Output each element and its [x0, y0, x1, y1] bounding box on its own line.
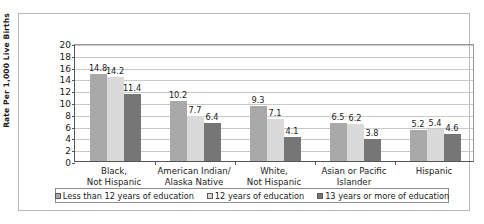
bar-value-label: 5.4: [428, 118, 441, 128]
bar-value-label: 6.5: [331, 112, 344, 122]
x-axis-category-label-line: Black,: [74, 166, 154, 177]
legend-swatch-icon: [55, 193, 61, 199]
y-axis-title-text: Rate Per 1,000 Live Births: [2, 6, 11, 136]
legend-item[interactable]: 12 years of education: [207, 191, 304, 201]
y-axis-tick-label: 4: [49, 134, 71, 144]
legend-swatch-icon: [317, 193, 323, 199]
x-axis-category-label: White,Not Hispanic: [234, 166, 314, 187]
y-axis-tick-label: 2: [49, 146, 71, 156]
chart-frame: Rate Per 1,000 Live Births 0246810121416…: [18, 13, 470, 211]
bar-value-label: 6.2: [348, 113, 361, 123]
bar[interactable]: 4.1: [284, 137, 301, 161]
x-axis-category-label: Asian or PacificIslander: [314, 166, 394, 187]
x-axis-category-label: Black,Not Hispanic: [74, 166, 154, 187]
x-axis-tick-mark: [315, 161, 316, 165]
x-axis-tick-mark: [235, 161, 236, 165]
y-axis-tick-label: 20: [49, 40, 71, 50]
bar-value-label: 4.1: [285, 126, 298, 136]
bar[interactable]: 6.2: [347, 124, 364, 161]
plot-area: 0246810121416182014.814.211.410.27.76.49…: [74, 44, 474, 162]
y-axis-tick-label: 10: [49, 99, 71, 109]
x-axis-tick-mark: [395, 161, 396, 165]
x-axis-category-label-line: American Indian/: [154, 166, 234, 177]
bar-value-label: 9.3: [251, 95, 264, 105]
x-axis-category-label-line: Alaska Native: [154, 177, 234, 188]
legend-swatch-icon: [207, 193, 213, 199]
y-axis-tick-label: 14: [49, 75, 71, 85]
legend-item-label: Less than 12 years of education: [63, 191, 194, 201]
bar-value-label: 7.7: [188, 105, 201, 115]
bar-group-bars: 14.814.211.4: [75, 45, 155, 161]
bar-group: 10.27.76.4: [155, 45, 235, 161]
bar-group-bars: 6.56.23.8: [315, 45, 395, 161]
bar-group: 5.25.44.6: [395, 45, 475, 161]
bar-value-label: 4.6: [445, 123, 458, 133]
bar[interactable]: 4.6: [444, 134, 461, 161]
y-axis-tick-label: 8: [49, 111, 71, 121]
y-axis-tick-mark: [72, 163, 75, 164]
bar[interactable]: 7.7: [187, 116, 204, 161]
bar-value-label: 14.2: [106, 66, 124, 76]
bar-value-label: 14.8: [89, 63, 107, 73]
bar-value-label: 11.4: [123, 83, 141, 93]
chart-legend: Less than 12 years of education12 years …: [55, 188, 449, 203]
bar-value-label: 5.2: [411, 119, 424, 129]
y-axis-tick-label: 18: [49, 52, 71, 62]
bar[interactable]: 5.2: [410, 130, 427, 161]
x-axis-tick-mark: [155, 161, 156, 165]
bar-group-bars: 9.37.14.1: [235, 45, 315, 161]
bar-group-bars: 10.27.76.4: [155, 45, 235, 161]
bar-value-label: 6.4: [205, 112, 218, 122]
bar[interactable]: 6.5: [330, 123, 347, 161]
bar-group: 14.814.211.4: [75, 45, 155, 161]
legend-item-label: 13 years or more of education: [325, 191, 449, 201]
bar-group: 9.37.14.1: [235, 45, 315, 161]
x-axis-category-label: American Indian/Alaska Native: [154, 166, 234, 187]
x-axis-category-label-line: Islander: [314, 177, 394, 188]
bar[interactable]: 11.4: [124, 94, 141, 161]
bar-value-label: 7.1: [268, 108, 281, 118]
bar-value-label: 10.2: [169, 90, 187, 100]
legend-item[interactable]: 13 years or more of education: [317, 191, 449, 201]
x-axis-category-label-line: Not Hispanic: [234, 177, 314, 188]
bar-group-bars: 5.25.44.6: [395, 45, 475, 161]
bar[interactable]: 10.2: [170, 101, 187, 161]
bar[interactable]: 6.4: [204, 123, 221, 161]
bar[interactable]: 5.4: [427, 129, 444, 161]
legend-item-label: 12 years of education: [215, 191, 304, 201]
y-axis-tick-label: 16: [49, 64, 71, 74]
bar-group: 6.56.23.8: [315, 45, 395, 161]
y-axis-tick-label: 0: [49, 158, 71, 168]
y-axis-tick-label: 12: [49, 87, 71, 97]
x-axis-category-label-line: Hispanic: [394, 166, 474, 177]
x-axis-category-label-line: Not Hispanic: [74, 177, 154, 188]
x-axis-category-label-line: White,: [234, 166, 314, 177]
bar-value-label: 3.8: [365, 128, 378, 138]
bar[interactable]: 3.8: [364, 139, 381, 161]
bar[interactable]: 14.2: [107, 77, 124, 161]
x-axis-category-label: Hispanic: [394, 166, 474, 177]
x-axis-category-label-line: Asian or Pacific: [314, 166, 394, 177]
bar[interactable]: 14.8: [90, 74, 107, 161]
y-axis-tick-label: 6: [49, 123, 71, 133]
bar[interactable]: 7.1: [267, 119, 284, 161]
bar[interactable]: 9.3: [250, 106, 267, 161]
legend-item[interactable]: Less than 12 years of education: [55, 191, 194, 201]
